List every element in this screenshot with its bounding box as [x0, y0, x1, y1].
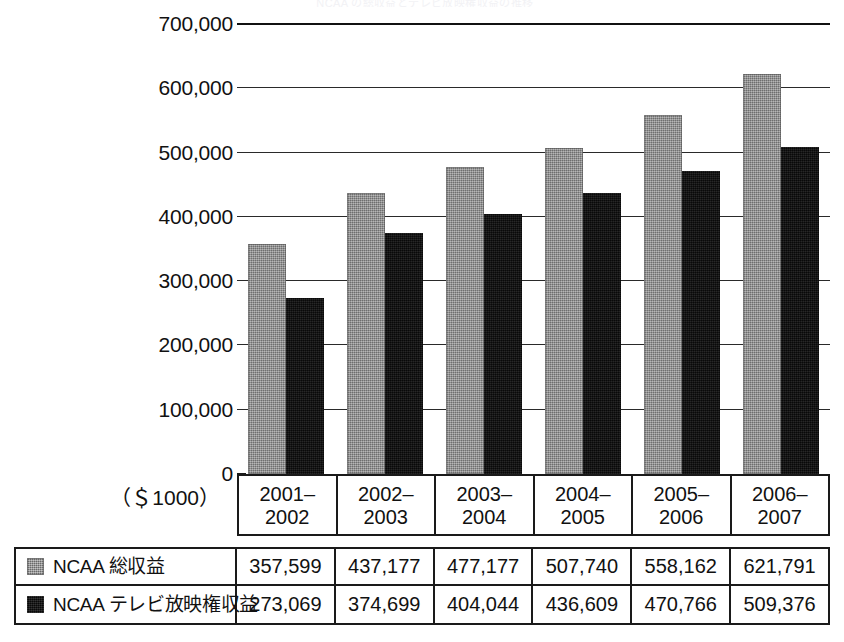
- x-axis-category-cell: 2001–2002: [239, 476, 338, 534]
- legend-label-tv: NCAA テレビ放映権収益: [53, 595, 258, 614]
- x-axis-category-line: 2005: [561, 506, 606, 529]
- table-cell-value: 437,177: [336, 549, 435, 584]
- x-axis-category-line: 2002: [265, 506, 310, 529]
- x-axis-category-cell: 2004–2005: [535, 476, 634, 534]
- legend-swatch-total-icon: [27, 558, 44, 575]
- x-axis-category-line: 2002–: [358, 483, 414, 506]
- legend-entry-total: NCAA 総収益: [16, 549, 237, 584]
- legend-entry-tv: NCAA テレビ放映権収益: [16, 586, 237, 623]
- table-cell-value: 357,599: [237, 549, 336, 584]
- table-row: NCAA テレビ放映権収益 273,069374,699404,044436,6…: [16, 586, 828, 623]
- values-tv: 273,069374,699404,044436,609470,766509,3…: [237, 586, 828, 623]
- table-row: NCAA 総収益 357,599437,177477,177507,740558…: [16, 549, 828, 586]
- x-axis-category-cell: 2005–2006: [633, 476, 732, 534]
- table-cell-value: 558,162: [632, 549, 731, 584]
- table-cell-value: 621,791: [731, 549, 828, 584]
- bar-tv-revenue: [583, 193, 621, 474]
- values-total: 357,599437,177477,177507,740558,162621,7…: [237, 549, 828, 584]
- x-axis-category-cell: 2002–2003: [338, 476, 437, 534]
- bar-chart: 0100,000200,000300,000400,000500,000600,…: [0, 0, 844, 642]
- legend-label-total: NCAA 総収益: [53, 557, 165, 576]
- x-axis-category-line: 2006: [659, 506, 704, 529]
- table-cell-value: 436,609: [533, 586, 632, 623]
- bar-tv-revenue: [484, 214, 522, 474]
- x-axis-category-line: 2006–: [752, 483, 808, 506]
- x-axis-category-table: 2001–20022002–20032003–20042004–20052005…: [237, 474, 830, 536]
- x-axis-category-cell: 2003–2004: [436, 476, 535, 534]
- table-cell-value: 374,699: [336, 586, 435, 623]
- legend-swatch-tv-icon: [27, 596, 44, 613]
- table-cell-value: 404,044: [435, 586, 534, 623]
- x-axis-category-line: 2005–: [653, 483, 709, 506]
- bar-tv-revenue: [286, 298, 324, 474]
- x-axis-category-cell: 2006–2007: [732, 476, 829, 534]
- bar-tv-revenue: [682, 171, 720, 474]
- bars-layer: [0, 0, 844, 642]
- bar-tv-revenue: [385, 233, 423, 474]
- bar-total-revenue: [545, 148, 583, 474]
- x-axis-category-line: 2001–: [259, 483, 315, 506]
- table-cell-value: 477,177: [435, 549, 534, 584]
- table-cell-value: 273,069: [237, 586, 336, 623]
- table-cell-value: 507,740: [533, 549, 632, 584]
- bar-total-revenue: [248, 244, 286, 474]
- x-axis-category-line: 2003–: [456, 483, 512, 506]
- table-cell-value: 470,766: [632, 586, 731, 623]
- legend-data-table: NCAA 総収益 357,599437,177477,177507,740558…: [14, 547, 830, 625]
- x-axis-category-line: 2007: [758, 506, 803, 529]
- bar-total-revenue: [446, 167, 484, 474]
- x-axis-category-line: 2004: [462, 506, 507, 529]
- x-axis-category-line: 2003: [364, 506, 409, 529]
- bar-total-revenue: [644, 115, 682, 474]
- bar-tv-revenue: [781, 147, 819, 474]
- bar-total-revenue: [743, 74, 781, 474]
- table-cell-value: 509,376: [731, 586, 828, 623]
- bar-total-revenue: [347, 193, 385, 474]
- x-axis-category-line: 2004–: [555, 483, 611, 506]
- unit-label: （＄1000）: [100, 487, 220, 508]
